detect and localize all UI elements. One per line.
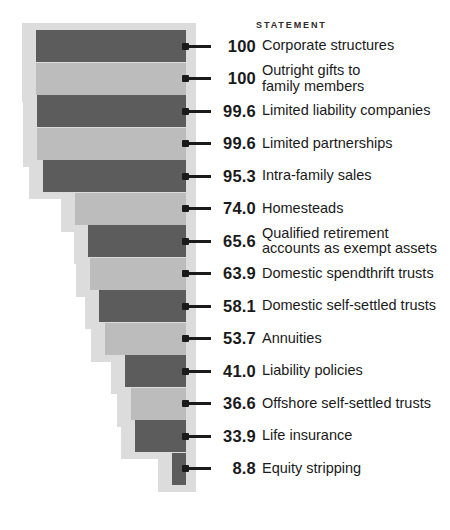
- bar: [131, 388, 186, 420]
- bar-value: 41.0: [186, 362, 256, 381]
- bar-category-label: Annuities: [262, 331, 450, 347]
- bar: [43, 160, 186, 192]
- column-header-statement: STATEMENT: [256, 20, 327, 30]
- bar-category-label: Offshore self-settled trusts: [262, 396, 450, 412]
- bar-value: 95.3: [186, 167, 256, 186]
- bar-value: 36.6: [186, 394, 256, 413]
- bar-value: 63.9: [186, 264, 256, 283]
- bar-value: 65.6: [186, 232, 256, 251]
- bar: [37, 95, 186, 127]
- bar-value: 33.9: [186, 427, 256, 446]
- bar-category-label: Domestic spendthrift trusts: [262, 266, 450, 282]
- bar-value: 8.8: [186, 459, 256, 478]
- bar: [36, 30, 186, 62]
- bar: [135, 420, 186, 452]
- bar: [36, 63, 186, 95]
- bar-value: 53.7: [186, 329, 256, 348]
- plot-area: [0, 0, 210, 530]
- bar-category-label: Life insurance: [262, 428, 450, 444]
- funnel-bar-chart: STATEMENT 100Corporate structures100Outr…: [0, 0, 450, 530]
- bar: [88, 225, 186, 257]
- bar-category-label: Liability policies: [262, 363, 450, 379]
- bar: [99, 290, 186, 322]
- bar: [125, 355, 187, 387]
- bar-category-label: Qualified retirement accounts as exempt …: [262, 226, 450, 257]
- bar-category-label: Outright gifts to family members: [262, 63, 450, 94]
- bar: [90, 258, 186, 290]
- bar-category-label: Corporate structures: [262, 38, 450, 54]
- bar-category-label: Equity stripping: [262, 461, 450, 477]
- bar-value: 100: [186, 37, 256, 56]
- bar: [105, 323, 186, 355]
- bar-category-label: Limited partnerships: [262, 136, 450, 152]
- bar-value: 100: [186, 69, 256, 88]
- bar-category-label: Intra-family sales: [262, 168, 450, 184]
- bar-value: 99.6: [186, 102, 256, 121]
- bar-value: 74.0: [186, 199, 256, 218]
- bar-value: 99.6: [186, 134, 256, 153]
- bar: [37, 128, 186, 160]
- bar-category-label: Limited liability companies: [262, 103, 450, 119]
- bar-value: 58.1: [186, 297, 256, 316]
- bar: [75, 193, 186, 225]
- bar-category-label: Domestic self-settled trusts: [262, 298, 450, 314]
- bar-category-label: Homesteads: [262, 201, 450, 217]
